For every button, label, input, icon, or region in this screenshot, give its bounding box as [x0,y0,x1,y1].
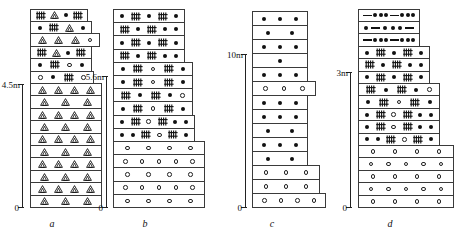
column-caption-b: b [125,218,165,229]
triangle-clast-icon [54,160,63,168]
strat-band [252,137,308,152]
filled-circle-icon [384,13,388,17]
strat-band [30,108,102,121]
open-circle-icon [437,199,442,204]
filled-circle-icon [429,137,433,141]
open-circle-icon [167,199,172,204]
hatched-bar-icon [403,48,412,57]
triangle-clast-icon [86,86,95,94]
filled-circle-icon [121,107,125,111]
triangle-clast-icon [38,135,47,143]
strat-band [30,95,102,108]
strat-band [358,46,430,59]
open-circle-icon [439,187,444,192]
triangle-clast-icon [54,36,63,44]
triangle-clast-icon [70,135,79,143]
scale-axis-line [106,76,107,208]
filled-circle-icon [163,54,167,58]
strat-band [252,109,308,124]
filled-circle-icon [365,125,369,129]
scale-bar-a [22,84,28,208]
triangle-clast-icon [71,36,80,44]
strat-band [113,167,205,181]
strat-band [252,39,308,54]
strat-band [113,35,185,49]
filled-circle-icon [173,120,177,124]
filled-circle-icon [366,100,370,104]
open-circle-icon [295,198,300,203]
strat-band [358,83,440,96]
filled-circle-icon [429,113,433,117]
hatched-bar-icon [164,104,173,113]
filled-circle-icon [278,143,282,147]
strat-band [30,120,102,133]
open-circle-icon [386,162,391,167]
scale-bottom-label-b: 0 [90,203,103,213]
filled-circle-icon [429,125,433,129]
filled-circle-icon [181,80,185,84]
hatched-bar-icon [131,117,140,126]
filled-circle-icon [266,129,270,133]
filled-circle-icon [419,63,423,67]
open-circle-icon [146,172,151,177]
hatched-bar-icon [120,51,129,60]
strat-band [30,182,102,195]
filled-circle-icon [294,143,298,147]
scale-bottom-label-d: 0 [334,203,347,213]
filled-circle-icon [266,31,270,35]
filled-circle-icon [81,26,85,30]
open-circle-icon [38,75,43,80]
triangle-clast-icon [70,111,79,119]
open-circle-icon [415,199,420,204]
strat-band [358,120,440,133]
filled-circle-icon [121,67,125,71]
filled-circle-icon [163,27,167,31]
hatched-bar-icon [151,91,160,100]
column-caption-c: c [252,218,292,229]
open-circle-icon [174,185,179,190]
triangle-clast-icon [83,148,92,156]
open-circle-icon [174,159,179,164]
strat-band [358,195,454,208]
triangle-clast-icon [61,173,70,181]
open-circle-icon [157,185,162,190]
open-circle-icon [371,149,376,154]
triangle-clast-icon [38,36,47,44]
filled-circle-icon [419,75,423,79]
filled-circle-icon [64,13,68,17]
strat-band [252,11,308,26]
open-circle-icon [404,187,409,192]
dash-icon [405,27,414,29]
hatched-bar-icon [164,78,173,87]
filled-circle-icon [121,80,125,84]
strat-band [252,151,308,166]
strat-band [252,67,308,82]
filled-circle-icon [400,38,404,42]
filled-circle-icon [136,54,140,58]
filled-circle-icon [383,26,387,30]
filled-circle-icon [278,115,282,119]
open-circle-icon [188,172,193,177]
filled-circle-icon [400,13,404,17]
open-circle-icon [140,159,145,164]
open-circle-icon [437,149,442,154]
triangle-clast-icon [83,98,92,106]
filled-circle-icon [290,157,294,161]
triangle-clast-icon [65,24,74,32]
strat-band [113,9,185,23]
filled-circle-icon [398,26,402,30]
hatched-bar-icon [76,48,85,57]
filled-circle-icon [51,75,55,79]
hatched-bar-icon [49,23,58,32]
filled-circle-icon [411,13,415,17]
scale-axis-line [245,54,246,208]
scale-bar-d [350,72,356,208]
strat-band [358,71,430,84]
scale-bottom-label-a: 0 [6,203,19,213]
filled-circle-icon [66,51,70,55]
filled-circle-icon [294,115,298,119]
open-circle-icon [190,185,195,190]
open-circle-icon [140,185,145,190]
triangle-clast-icon [54,111,63,119]
filled-circle-icon [294,73,298,77]
